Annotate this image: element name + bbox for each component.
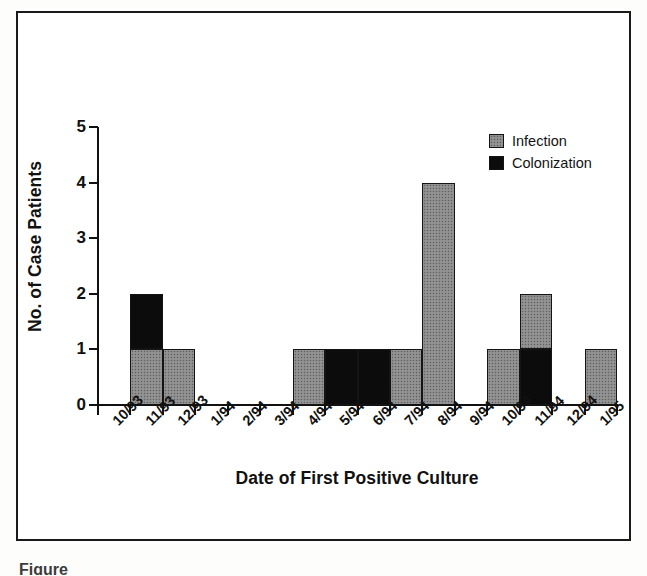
x-axis-tick-label: 10/94 <box>499 393 535 429</box>
x-axis-tick-label: 7/94 <box>402 398 432 428</box>
x-axis-category-labels: 10/9311/9312/931/942/943/944/945/946/947… <box>0 0 647 576</box>
x-axis-tick-label: 1/95 <box>597 398 627 428</box>
x-axis-tick-label: 10/93 <box>110 393 146 429</box>
legend-item: Colonization <box>489 156 624 171</box>
x-axis-tick-label: 11/93 <box>143 393 178 428</box>
x-axis-title: Date of First Positive Culture <box>97 468 617 489</box>
legend-swatch-icon <box>489 156 504 170</box>
x-axis-tick-label: 6/94 <box>370 398 400 428</box>
x-axis-tick-label: 5/94 <box>337 398 367 428</box>
x-axis-tick-label: 1/94 <box>208 398 238 428</box>
legend-swatch-icon <box>489 134 504 148</box>
x-axis-tick-label: 8/94 <box>435 398 465 428</box>
x-axis-tick-label: 4/94 <box>305 398 335 428</box>
x-axis-tick-label: 2/94 <box>240 398 270 428</box>
scanned-figure-page: 012345 10/9311/9312/931/942/943/944/945/… <box>0 0 647 576</box>
chart-legend: InfectionColonization <box>489 134 624 177</box>
x-axis-tick-label: 12/94 <box>564 393 600 429</box>
x-axis-tick-label: 9/94 <box>467 398 497 428</box>
y-axis-title: No. of Case Patients <box>25 147 46 347</box>
legend-label: Infection <box>512 134 567 149</box>
legend-item: Infection <box>489 134 624 149</box>
x-axis-tick-label: 3/94 <box>272 398 302 428</box>
figure-caption-remnant: Figure <box>19 561 68 575</box>
x-axis-tick-label: 12/93 <box>175 393 211 429</box>
x-axis-tick-label: 11/94 <box>532 393 567 428</box>
legend-label: Colonization <box>512 156 592 171</box>
